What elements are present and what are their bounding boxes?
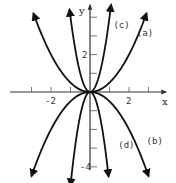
curve-label-c: (c)	[113, 20, 129, 30]
chart-canvas: -222-4 x y (a)(b)(c)(d)	[0, 0, 176, 183]
y-tick-label: -4	[80, 162, 91, 172]
x-axis-label: x	[162, 96, 168, 107]
curve-label-d: (d)	[118, 140, 134, 150]
curve-label-a: (a)	[137, 28, 153, 38]
y-tick-label: 2	[82, 50, 87, 60]
curve-label-b: (b)	[147, 136, 163, 146]
y-axis-label: y	[78, 5, 85, 16]
curve-labels: (a)(b)(c)(d)	[113, 20, 162, 150]
x-tick-label: 2	[126, 96, 131, 106]
x-tick-label: -2	[45, 96, 56, 106]
